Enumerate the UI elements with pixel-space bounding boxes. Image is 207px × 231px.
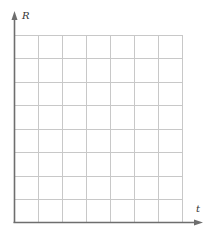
y-axis-arrow-icon	[12, 11, 18, 20]
graph-canvas: R t	[0, 0, 207, 231]
x-axis-label: t	[196, 203, 201, 214]
grid-lines	[14, 35, 183, 222]
x-axis-arrow-icon	[194, 220, 203, 226]
y-axis-label: R	[21, 10, 30, 21]
y-axis	[12, 11, 18, 223]
x-axis	[14, 220, 204, 226]
